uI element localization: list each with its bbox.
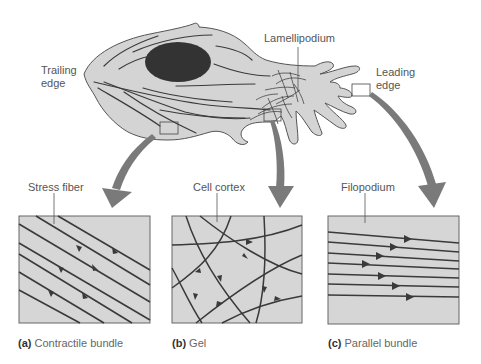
leading-edge-label-line1: Leading xyxy=(376,66,415,79)
caption-c-letter: (c) xyxy=(328,337,341,349)
leading-edge-label: Leading edge xyxy=(376,66,415,92)
trailing-edge-label: Trailing edge xyxy=(41,64,77,90)
panel-a-contractile-bundle xyxy=(19,193,150,323)
panel-b-gel xyxy=(172,193,302,323)
caption-c: (c) Parallel bundle xyxy=(328,337,417,349)
caption-b-text: Gel xyxy=(189,337,206,349)
caption-a: (a) Contractile bundle xyxy=(18,337,123,349)
trailing-edge-label-line2: edge xyxy=(41,77,77,90)
leading-edge-label-line2: edge xyxy=(376,79,415,92)
caption-c-text: Parallel bundle xyxy=(345,337,418,349)
caption-b: (b) Gel xyxy=(172,337,206,349)
filopodium-label: Filopodium xyxy=(341,181,395,194)
stress-fiber-label: Stress fiber xyxy=(28,181,84,194)
arrow-to-panel-a xyxy=(102,134,156,208)
lamellipodium-label: Lamellipodium xyxy=(264,32,335,45)
caption-b-letter: (b) xyxy=(172,337,186,349)
panel-c-parallel-bundle xyxy=(328,193,459,324)
cell-cortex-label: Cell cortex xyxy=(193,181,245,194)
caption-a-text: Contractile bundle xyxy=(35,337,124,349)
trailing-edge-label-line1: Trailing xyxy=(41,64,77,77)
caption-a-letter: (a) xyxy=(18,337,31,349)
nucleus xyxy=(145,42,211,82)
filopodium-region-box xyxy=(352,84,370,96)
